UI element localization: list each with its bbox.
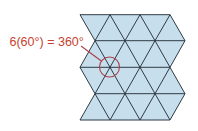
tessellation-diagram: 6(60°) = 360° xyxy=(0,0,198,131)
angle-sum-label: 6(60°) = 360° xyxy=(10,35,84,49)
